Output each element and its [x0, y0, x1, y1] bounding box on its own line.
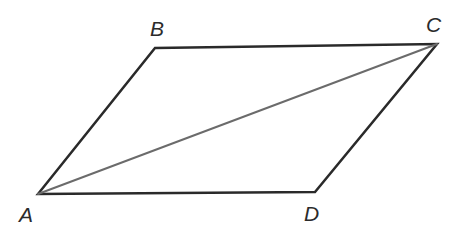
parallelogram-svg — [0, 0, 463, 241]
vertex-label-c: C — [426, 14, 441, 35]
vertex-label-b: B — [150, 18, 164, 39]
vertex-label-d: D — [304, 203, 319, 224]
vertex-label-a: A — [19, 204, 33, 225]
geometry-figure: A B C D — [0, 0, 463, 241]
